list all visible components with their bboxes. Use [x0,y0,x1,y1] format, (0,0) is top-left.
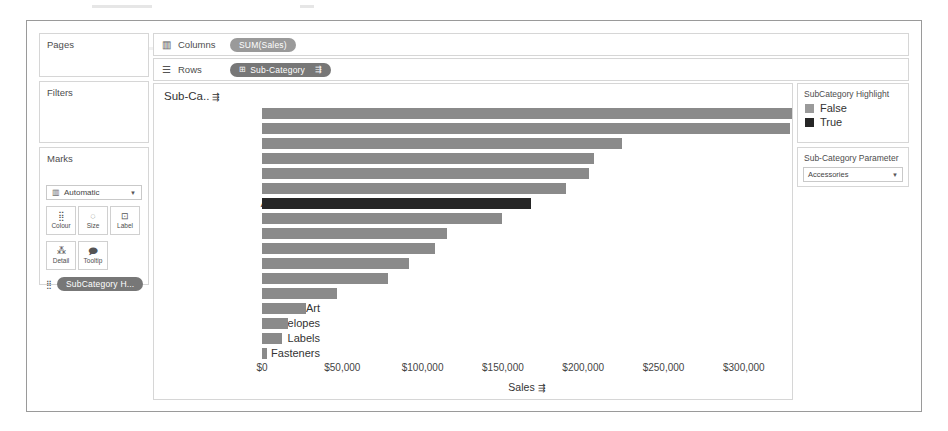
x-axis: Sales⇶ $0$50,000$100,000$150,000$200,000… [262,362,792,396]
marks-colour-pill-row[interactable]: ⣿ SubCategory H... [46,277,143,291]
bar-row[interactable]: Copiers [154,211,792,226]
chevron-down-icon: ▼ [892,172,898,178]
colour-legend[interactable]: SubCategory Highlight False True [797,83,909,143]
marks-colour-pill[interactable]: SubCategory H... [57,277,143,291]
bar-row[interactable]: Machines [154,181,792,196]
parameter-value: Accessories [808,170,848,179]
x-axis-tick-label: $100,000 [402,362,444,373]
bar-mark[interactable] [262,168,589,179]
marks-label: Marks [40,148,148,164]
bar-mark[interactable] [262,273,388,284]
bar-mark[interactable] [262,333,282,344]
marks-type-value: Automatic [64,188,100,197]
bar-mark[interactable] [262,183,566,194]
bar-mark[interactable] [262,318,288,329]
legend-label-false: False [820,103,847,114]
x-axis-tick-label: $300,000 [723,362,765,373]
bar-row[interactable]: Paper [154,271,792,286]
sort-icon[interactable]: ⇶ [212,92,220,102]
bar-row[interactable]: Labels [154,331,792,346]
rows-label: Rows [178,64,230,75]
colour-icon: ⣿ [58,212,65,221]
bar-mark[interactable] [262,303,306,314]
bar-row-label: Fasteners [200,346,320,361]
bar-row[interactable]: Art [154,301,792,316]
marks-size-button[interactable]: ◌ Size [78,206,108,235]
marks-detail-button[interactable]: ⁂ Detail [46,241,76,270]
marks-label-button[interactable]: ⊡ Label [110,206,140,235]
parameter-control[interactable]: Sub-Category Parameter Accessories ▼ [797,147,909,187]
bar-row[interactable]: Appliances [154,241,792,256]
colour-icon: ⣿ [46,280,52,289]
marks-colour-label: Colour [51,223,70,230]
bar-row[interactable]: Accessories [154,196,792,211]
marks-colour-button[interactable]: ⣿ Colour [46,206,76,235]
chevron-down-icon: ▼ [130,190,136,196]
legend-item-true[interactable]: True [798,117,908,131]
bar-mark[interactable] [262,198,531,209]
artifact-line-right [300,5,314,8]
sort-icon[interactable]: ⇶ [315,65,322,74]
bar-row[interactable]: Furnishings [154,256,792,271]
parameter-title: Sub-Category Parameter [798,148,908,167]
filters-label: Filters [40,82,148,98]
bar-mark[interactable] [262,258,409,269]
filters-shelf[interactable]: Filters [39,81,149,143]
bar-row[interactable]: Supplies [154,286,792,301]
bar-row-label: Envelopes [200,316,320,331]
marks-type-dropdown[interactable]: ▥ Automatic ▼ [46,185,142,200]
rows-shelf[interactable]: ☰ Rows ⊞ Sub-Category ⇶ [153,58,909,81]
sort-icon[interactable]: ⇶ [538,383,546,393]
bar-mark[interactable] [262,348,267,359]
bar-mark-icon: ▥ [52,188,60,197]
bar-mark[interactable] [262,213,502,224]
parameter-select[interactable]: Accessories ▼ [803,167,903,182]
bar-mark[interactable] [262,288,337,299]
size-icon: ◌ [90,212,95,221]
bar-mark[interactable] [262,153,594,164]
detail-icon: ⁂ [57,247,66,256]
bar-rows: PhonesChairsStorageTablesBindersMachines… [154,106,792,361]
chart-view: Sub-Ca..⇶ PhonesChairsStorageTablesBinde… [153,83,793,400]
legend-label-true: True [820,117,842,128]
bar-mark[interactable] [262,138,622,149]
bar-row[interactable]: Fasteners [154,346,792,361]
columns-shelf[interactable]: ▥ Columns SUM(Sales) [153,33,909,56]
x-axis-tick-label: $50,000 [324,362,360,373]
bar-row[interactable]: Chairs [154,121,792,136]
bar-mark[interactable] [262,123,790,134]
bar-row[interactable]: Envelopes [154,316,792,331]
bar-row[interactable]: Bookcases [154,226,792,241]
legend-title: SubCategory Highlight [798,84,908,103]
pages-label: Pages [40,34,148,50]
discrete-field-icon: ⊞ [239,65,246,74]
marks-tooltip-label: Tooltip [84,258,103,265]
bar-row[interactable]: Binders [154,166,792,181]
bar-mark[interactable] [262,243,435,254]
marks-detail-label: Detail [53,258,70,265]
pages-shelf[interactable]: Pages [39,33,149,77]
bar-mark[interactable] [262,228,447,239]
x-axis-tick-label: $150,000 [482,362,524,373]
marks-tooltip-button[interactable]: 🗩 Tooltip [78,241,108,270]
page-background-artifact [0,0,948,14]
bar-mark[interactable] [262,108,792,119]
marks-label-label: Label [117,223,133,230]
bar-row[interactable]: Storage [154,136,792,151]
bar-row[interactable]: Phones [154,106,792,121]
x-axis-tick-label: $200,000 [562,362,604,373]
x-axis-tick-label: $0 [256,362,267,373]
x-axis-tick-label: $250,000 [643,362,685,373]
rows-pill-sub-category[interactable]: ⊞ Sub-Category ⇶ [230,63,331,77]
columns-pill-sum-sales[interactable]: SUM(Sales) [230,38,296,52]
bar-row-label: Labels [200,331,320,346]
columns-label: Columns [178,39,230,50]
row-field-header-label: Sub-Ca.. [164,90,209,102]
bar-row[interactable]: Tables [154,151,792,166]
row-field-header[interactable]: Sub-Ca..⇶ [164,90,220,102]
artifact-line-left [92,5,152,8]
rows-pill-label: Sub-Category [250,65,305,75]
x-axis-title[interactable]: Sales⇶ [508,381,545,393]
tooltip-icon: 🗩 [88,247,98,256]
legend-item-false[interactable]: False [798,103,908,117]
